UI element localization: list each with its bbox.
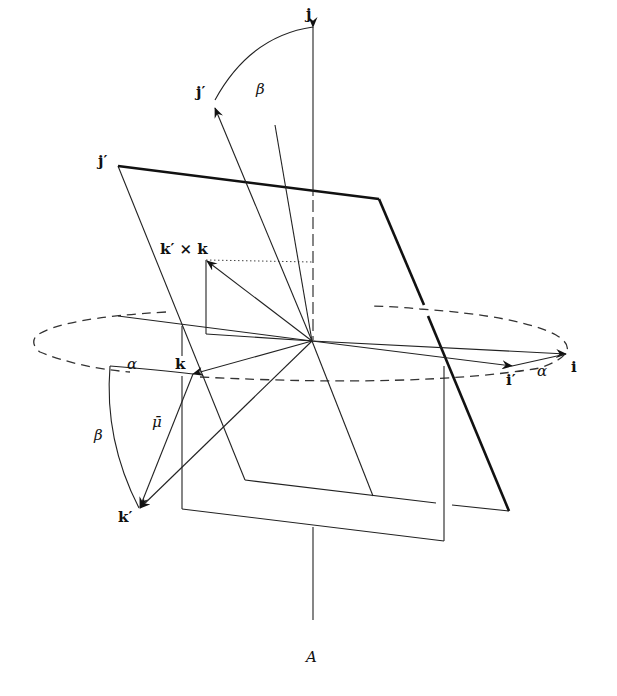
ik-plane-ellipse	[34, 306, 568, 381]
label-k-prime: k′	[118, 508, 132, 526]
label-i-prime: i′	[506, 371, 516, 389]
k-prime-vector	[140, 341, 312, 508]
mu-bar-vector	[140, 374, 193, 507]
beta-arc-left	[109, 366, 139, 508]
figure-caption: A	[304, 648, 317, 666]
label-cross-product: k′ × k	[160, 240, 208, 258]
euler-rotation-diagram: j j′ β j′ k′ × k α k μ̄ β k′ i′ α i A	[0, 0, 617, 696]
i-prime-vector	[312, 341, 512, 366]
reference-lines	[118, 125, 312, 341]
label-i: i	[571, 358, 577, 376]
label-j: j	[304, 5, 311, 23]
label-j-prime-plane: j′	[96, 152, 107, 170]
k-vector	[193, 341, 312, 374]
label-k: k	[175, 355, 186, 373]
angle-arcs	[109, 27, 566, 508]
label-beta-left: β	[93, 426, 103, 444]
label-mu-bar: μ̄	[152, 413, 162, 431]
j-prime-vector	[215, 108, 312, 341]
vectors	[140, 108, 566, 508]
label-beta-top: β	[255, 80, 265, 98]
label-alpha-right: α	[537, 362, 547, 380]
outer-frame	[182, 326, 444, 541]
label-alpha-left: α	[127, 355, 137, 373]
label-j-prime-top: j′	[194, 83, 205, 101]
